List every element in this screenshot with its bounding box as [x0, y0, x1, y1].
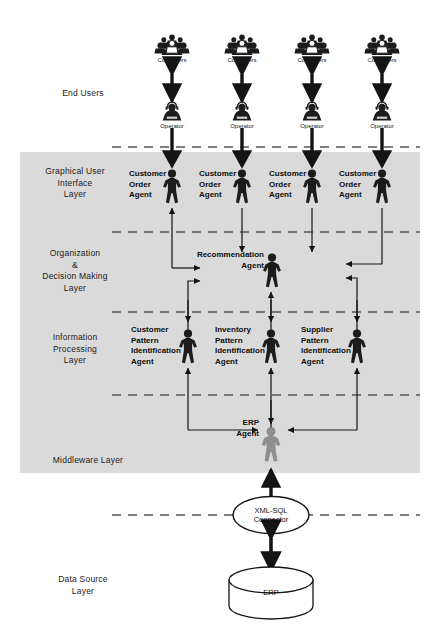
xml-sql-connector-label: XML-SQL Connector	[231, 506, 311, 524]
operator-caption-3: Operator	[288, 123, 336, 130]
agent-label-customer-order-3: Customer Order Agent	[269, 169, 309, 201]
agent-label-customer-pattern: Customer Pattern Identification Agent	[131, 325, 187, 367]
agent-label-recommendation: Recommendation Agent	[188, 250, 264, 271]
customers-caption-2: Customers	[218, 57, 266, 64]
erp-datastore-label: ERP	[241, 588, 301, 597]
layer-label-data-source: Data Source Layer	[38, 574, 128, 597]
diagram-canvas: End Users Graphical User Interface Layer…	[0, 0, 440, 636]
operator-caption-4: Operator	[358, 123, 406, 130]
arrows-customers-operator	[172, 74, 382, 101]
agent-label-inventory-pattern: Inventory Pattern Identification Agent	[215, 325, 271, 367]
customers-caption-3: Customers	[288, 57, 336, 64]
operator-caption-1: Operator	[148, 123, 196, 130]
layer-label-info: Information Processing Layer	[22, 332, 128, 367]
layer-label-org: Organization & Decision Making Layer	[22, 248, 128, 294]
agent-label-customer-order-1: Customer Order Agent	[129, 169, 169, 201]
layer-label-gui: Graphical User Interface Layer	[22, 166, 128, 201]
agent-label-erp: ERP Agent	[213, 418, 259, 439]
end-user-figures	[154, 35, 399, 121]
agent-label-supplier-pattern: Supplier Pattern Identification Agent	[301, 325, 357, 367]
layer-label-middleware: Middleware Layer	[28, 455, 148, 467]
operator-caption-2: Operator	[218, 123, 266, 130]
layer-label-end-users: End Users	[38, 88, 128, 100]
customers-caption-1: Customers	[148, 57, 196, 64]
agent-label-customer-order-2: Customer Order Agent	[199, 169, 239, 201]
agent-label-customer-order-4: Customer Order Agent	[339, 169, 379, 201]
customers-caption-4: Customers	[358, 57, 406, 64]
